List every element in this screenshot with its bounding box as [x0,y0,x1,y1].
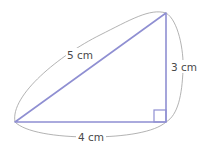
hypotenuse-label: 5 cm [67,49,93,61]
right-triangle-diagram: 5 cm 3 cm 4 cm [0,0,207,154]
base-label: 4 cm [78,131,104,143]
right-angle-marker [154,110,166,122]
triangle [15,13,166,122]
vertical-side-label: 3 cm [171,61,197,73]
